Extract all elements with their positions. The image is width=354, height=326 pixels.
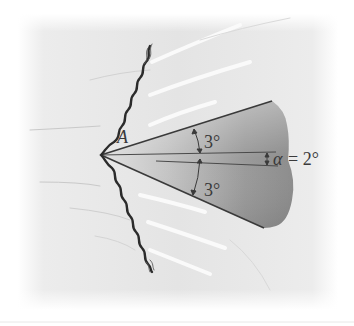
shock-wedge-diagram: A 3° 3° α = 2° xyxy=(0,0,354,326)
lower-angle-label: 3° xyxy=(204,180,220,200)
point-a-label: A xyxy=(116,127,129,147)
upper-angle-label: 3° xyxy=(204,132,220,152)
alpha-symbol-label: α xyxy=(273,149,283,169)
alpha-value-label: = 2° xyxy=(288,149,319,169)
